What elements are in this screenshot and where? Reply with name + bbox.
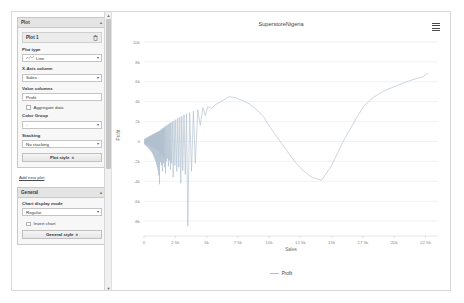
y-axis-tick-label: 6k [135,79,140,84]
aggregate-data-row[interactable]: Aggregate data [26,105,102,110]
y-axis-tick-label: 4k [135,99,140,104]
line-chart-icon [26,56,34,60]
chevron-down-icon[interactable]: ▾ [97,76,99,80]
y-axis-tick-label: 8k [135,60,140,65]
settings-sidebar: Plot ▲ Plot 1 Plot type [12,12,111,290]
y-axis-title: Profit [116,129,121,140]
y-axis-tick-label: -8k [134,219,141,224]
chart-display-mode-value: Regular [26,210,41,215]
plot-type-label: Plot type [22,48,102,52]
plot-panel-title: Plot [21,20,30,25]
stacking-label: Stacking [22,134,102,138]
stacking-select[interactable]: No stacking ▾ [22,140,102,148]
chart-display-mode-select[interactable]: Regular ▾ [22,208,102,216]
value-columns-label: Value columns [22,87,102,91]
series-line-profit [144,73,428,226]
general-panel-body: Chart display mode Regular ▾ Invert char… [18,198,106,244]
color-group-select[interactable]: - ▾ [22,121,102,129]
chart-plot: 10k8k6k4k2k0-2k-4k-6k-8k02.5k5k7.5k10k12… [112,12,450,290]
y-axis-tick-label: -2k [134,159,141,164]
invert-chart-label: Invert chart [34,221,56,226]
x-axis-tick-label: 5k [204,240,209,245]
chevron-collapse-icon[interactable]: ▲ [99,190,103,195]
general-panel: General ▲ Chart display mode Regular ▾ I… [17,187,107,245]
plot-panel-body: Plot 1 Plot type [18,28,106,167]
stacking-value: No stacking [26,142,49,147]
chevron-down-icon[interactable]: ▾ [97,142,99,146]
invert-chart-row[interactable]: Invert chart [26,221,102,226]
plot-panel-header[interactable]: Plot ▲ [18,18,106,28]
aggregate-data-checkbox[interactable] [26,105,31,110]
chart-display-mode-label: Chart display mode [22,202,102,206]
plot-panel: Plot ▲ Plot 1 Plot type [17,17,107,168]
x-axis-tick-label: 12.5k [295,240,307,245]
plot-type-value: Line [36,56,44,61]
chevron-down-icon[interactable]: ▾ [97,123,99,127]
double-chevron-right-icon: » [76,232,79,237]
trash-icon[interactable] [93,35,98,41]
sidebar-scrollbar[interactable]: ▲ ▼ [104,12,111,290]
chevron-collapse-icon[interactable]: ▲ [99,20,103,25]
general-style-label: General style [46,232,74,237]
chevron-down-icon[interactable]: ▾ [97,210,99,214]
legend-label: Profit [282,271,293,276]
x-axis-title: Sales [285,247,297,252]
value-columns-value: Profit [26,95,36,100]
general-panel-header[interactable]: General ▲ [18,188,106,198]
y-axis-tick-label: -4k [134,179,141,184]
x-axis-tick-label: 0 [143,240,146,245]
general-panel-title: General [21,190,38,195]
plot-item-header[interactable]: Plot 1 [22,32,102,43]
x-axis-tick-label: 15k [328,240,336,245]
value-columns-field[interactable]: Profit [22,93,102,101]
chart-canvas: SuperstoreNigeria 10k8k6k4k2k0-2k-4k-6k-… [111,12,450,290]
color-group-label: Color Group [22,114,102,118]
x-axis-tick-label: 22.5k [420,240,432,245]
plot-style-button[interactable]: Plot style » [22,153,102,162]
chevron-down-icon[interactable]: ▾ [97,56,99,60]
x-axis-tick-label: 10k [266,240,274,245]
x-axis-column-value: Sales [26,75,37,80]
x-axis-column-label: X-Axis column [22,67,102,71]
y-axis-tick-label: 10k [133,40,141,45]
y-axis-tick-label: 2k [135,119,140,124]
double-chevron-right-icon: » [71,155,74,160]
aggregate-data-label: Aggregate data [34,105,64,110]
invert-chart-checkbox[interactable] [26,222,31,227]
plot-item-label: Plot 1 [26,35,39,40]
chart-legend: Profit [112,271,450,276]
legend-swatch [270,273,279,274]
y-axis-tick-label: 0 [138,139,141,144]
x-axis-tick-label: 7.5k [234,240,243,245]
x-axis-tick-label: 20k [391,240,399,245]
general-style-button[interactable]: General style » [22,230,102,239]
chart-builder-window: Plot ▲ Plot 1 Plot type [11,11,451,291]
x-axis-tick-label: 2.5k [171,240,180,245]
x-axis-tick-label: 17.5k [358,240,370,245]
plot-style-label: Plot style [50,155,70,160]
add-new-plot-link[interactable]: Add new plot [19,175,44,180]
y-axis-tick-label: -6k [134,199,141,204]
color-group-value: - [26,122,27,127]
plot-type-select[interactable]: Line ▾ [22,54,102,62]
x-axis-column-select[interactable]: Sales ▾ [22,74,102,82]
